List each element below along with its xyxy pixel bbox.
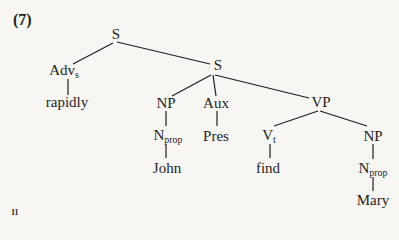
edge-s-np bbox=[172, 75, 211, 96]
page-number: 11 bbox=[11, 208, 19, 217]
node-pres: Pres bbox=[203, 129, 229, 144]
node-vp: VP bbox=[311, 95, 330, 110]
node-find: find bbox=[256, 161, 280, 176]
node-rapidly: rapidly bbox=[46, 95, 89, 110]
edge-s-advs bbox=[73, 43, 113, 64]
node-john: John bbox=[153, 161, 181, 176]
node-advs: Advs bbox=[49, 63, 79, 78]
node-mary: Mary bbox=[357, 193, 390, 208]
node-np-subject: NP bbox=[156, 96, 175, 111]
node-nprop-subject: Nprop bbox=[153, 128, 182, 143]
node-s-inner: S bbox=[214, 58, 222, 73]
edge-s-vp bbox=[215, 75, 309, 98]
edge-vp-vt bbox=[274, 111, 318, 126]
edge-s-aux bbox=[213, 75, 216, 96]
edge-s-s bbox=[117, 42, 210, 64]
node-aux: Aux bbox=[203, 96, 229, 111]
node-np-object: NP bbox=[363, 129, 382, 144]
node-vt: Vt bbox=[262, 128, 276, 143]
node-nprop-object: Nprop bbox=[358, 161, 387, 176]
node-s-top: S bbox=[112, 27, 120, 42]
edge-vp-np bbox=[320, 111, 367, 126]
